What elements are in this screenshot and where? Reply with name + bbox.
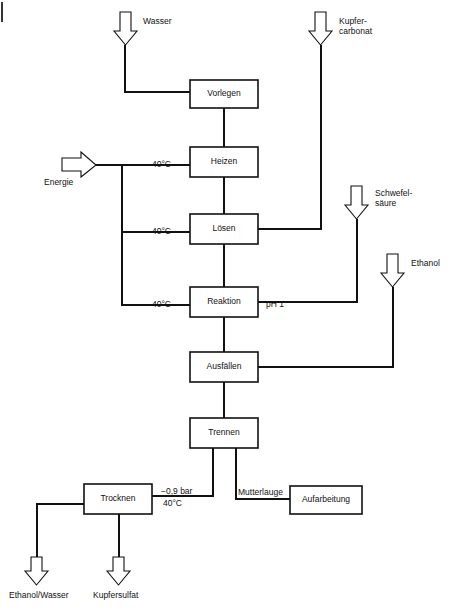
line-wasser-to-vorlegen [125, 45, 190, 92]
arrow-label-ethanol: Ethanol [411, 258, 440, 268]
process-label-loesen: Lösen [190, 223, 258, 233]
line-trocknen-to-ethanolwasser [37, 504, 84, 557]
arrow-label-ethanol-wasser: Ethanol/Wasser [9, 590, 69, 600]
process-label-ausfaellen: Ausfällen [190, 361, 258, 371]
process-label-trennen: Trennen [190, 427, 258, 437]
process-label-vorlegen: Vorlegen [190, 88, 258, 98]
stream-label-temp-trocknen: 40°C [163, 498, 182, 508]
arrow-kupfersulfat-icon [107, 557, 130, 585]
arrow-kupfercarbonat-icon [309, 12, 332, 45]
process-label-reaktion: Reaktion [190, 296, 258, 306]
stream-label-mutterlauge: Mutterlauge [238, 487, 283, 497]
stream-label-temp-loesen: 40°C [152, 226, 171, 236]
process-label-heizen: Heizen [190, 156, 258, 166]
line-schwefelsaeure-to-reaktion [258, 219, 357, 302]
process-flow-diagram: Vorlegen Heizen Lösen Reaktion Ausfällen… [0, 0, 457, 611]
stream-label-temp-reaktion: 40°C [152, 299, 171, 309]
stream-label-pressure-dry: −0,9 bar [161, 486, 192, 496]
process-label-trocknen: Trocknen [84, 493, 152, 503]
arrow-ethanol-wasser-icon [25, 557, 48, 585]
stream-label-temp-heizen: 40°C [152, 159, 171, 169]
arrow-label-kupfercarbonat: Kupfer- carbonat [339, 16, 372, 36]
stream-label-ph-reaktion: pH 1 [266, 299, 284, 309]
process-label-aufarbeitung: Aufarbeitung [290, 494, 362, 504]
arrow-label-energie: Energie [44, 177, 73, 187]
arrow-ethanol-icon [381, 254, 404, 287]
arrow-wasser-icon [114, 12, 137, 45]
arrow-schwefelsaeure-icon [345, 186, 368, 219]
line-kupfercarbonat-to-loesen [258, 45, 321, 229]
arrow-energie-icon [62, 152, 96, 177]
arrow-label-kupfersulfat: Kupfersulfat [93, 590, 138, 600]
arrow-label-wasser: Wasser [143, 16, 172, 26]
arrow-label-schwefelsaeure: Schwefel- säure [375, 188, 412, 208]
